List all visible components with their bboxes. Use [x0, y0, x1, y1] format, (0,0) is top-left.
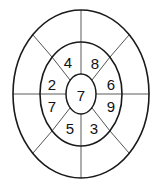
number-wheel-figure: 4 8 6 9 3 5 7 2 7 [0, 0, 162, 188]
cell-middle-right-lower: 9 [107, 98, 115, 115]
spoke-upright-outer [110, 35, 129, 57]
cell-middle-left-upper: 2 [48, 76, 56, 93]
spoke-downright-outer [110, 131, 129, 153]
cell-middle-top-left: 4 [64, 54, 72, 71]
cell-middle-top-right: 8 [91, 55, 99, 72]
cell-middle-right-upper: 6 [107, 76, 115, 93]
spoke-downleft-outer [33, 131, 52, 153]
cell-middle-bottom-left: 5 [66, 120, 74, 137]
cell-middle-left-lower: 7 [48, 98, 56, 115]
number-wheel-svg: 4 8 6 9 3 5 7 2 7 [0, 0, 162, 188]
spoke-upleft-outer [33, 35, 52, 57]
cell-middle-bottom-right: 3 [90, 120, 98, 137]
cell-center: 7 [77, 87, 85, 104]
